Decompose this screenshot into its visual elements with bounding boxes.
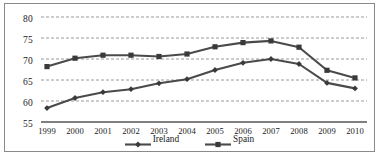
legend-label-spain: Spain [233,135,254,144]
legend-marker-diamond-icon [125,135,151,144]
series-line-ireland [44,56,358,111]
legend-marker-square-icon [205,135,231,144]
legend-label-ireland: Ireland [153,135,179,144]
gridlines [41,17,367,101]
legend-item-spain[interactable]: Spain [205,135,254,144]
legend-item-ireland[interactable]: Ireland [125,135,179,144]
chart-legend: Ireland Spain [5,135,374,144]
chart-container: 80 75 70 65 60 55 [4,3,375,152]
